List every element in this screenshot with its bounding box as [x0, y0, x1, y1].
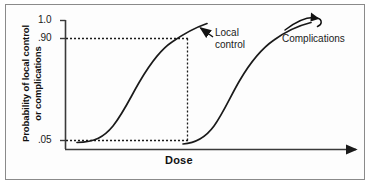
complications-annotation-label: Complications	[282, 33, 345, 45]
figure-container: 1.0 .90 .05 Probability of local control…	[0, 0, 371, 189]
y-axis-title: Probability of local control or complica…	[20, 9, 43, 159]
complications-arrowhead	[311, 13, 320, 22]
y-axis-title-line-1: Probability of local control	[20, 9, 32, 159]
local-control-annotation-arrow	[201, 28, 214, 37]
x-axis-title: Dose	[165, 154, 193, 166]
local-control-annotation-label: Local control	[215, 27, 245, 50]
y-axis-title-line-2: or complications	[31, 9, 43, 159]
